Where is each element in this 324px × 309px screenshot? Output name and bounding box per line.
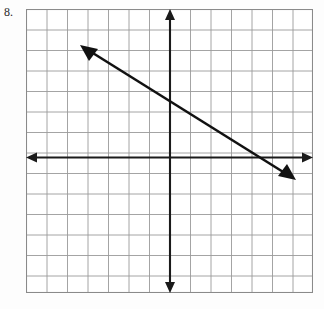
worksheet-page: 8. xyxy=(0,0,324,309)
coordinate-graph xyxy=(26,9,313,293)
problem-number-label: 8. xyxy=(4,5,13,19)
graph-svg xyxy=(26,9,313,293)
